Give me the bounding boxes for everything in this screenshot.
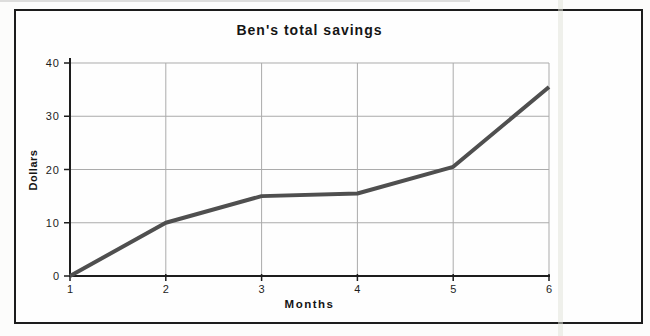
x-tick-label: 1 (67, 283, 73, 295)
y-tick-label: 40 (46, 57, 60, 69)
y-tick-label: 20 (46, 164, 60, 176)
x-tick-label: 5 (450, 283, 456, 295)
line-chart-plot: 010203040123456 (0, 0, 650, 336)
scanned-chart-page: Ben's total savings Dollars Months 01020… (0, 0, 650, 336)
y-tick-label: 30 (46, 110, 60, 122)
x-tick-label: 3 (259, 283, 265, 295)
x-tick-label: 6 (546, 283, 552, 295)
savings-line (70, 87, 549, 276)
x-tick-label: 4 (354, 283, 360, 295)
y-tick-label: 10 (46, 217, 60, 229)
x-tick-label: 2 (163, 283, 169, 295)
y-tick-label: 0 (53, 270, 60, 282)
